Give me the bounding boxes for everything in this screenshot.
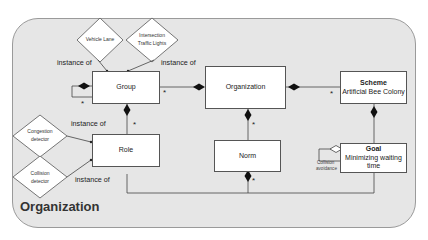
vehicle-lane-label: Vehicle Lane [86,36,115,44]
instance-of-label-1: instance of [57,58,92,67]
goal-subtitle: Minimizing waiting time [341,154,406,172]
instance-of-label-4: instance of [75,175,110,184]
group-title: Group [116,83,135,92]
collision-label-line2: detector [31,178,49,186]
collision-label-line1: Collision [31,170,50,178]
congestion-label-line2: detector [31,136,49,144]
multiplicity-org-scheme: * [330,89,333,98]
congestion-label-line1: Congestion [27,128,52,136]
organization-box[interactable]: Organization [205,66,286,109]
collision-avoidance-line2: avoidance [316,166,337,172]
norm-title: Norm [239,152,256,161]
norm-box[interactable]: Norm [214,140,281,172]
goal-title: Goal [366,145,382,154]
organization-title: Organization [226,83,266,92]
intersection-label-line2: Traffic Lights [138,40,166,48]
goal-box[interactable]: Goal Minimizing waiting time [340,143,407,173]
multiplicity-org-norm: * [252,120,255,129]
scheme-box[interactable]: Scheme Artificial Bee Colony [340,71,407,104]
instance-of-label-3: instance of [71,119,106,128]
scheme-title: Scheme [360,79,387,88]
instance-of-label-2: instance of [161,58,196,67]
multiplicity-group-role: * [133,120,136,129]
role-title: Role [119,146,133,155]
scheme-subtitle: Artificial Bee Colony [342,88,405,97]
multiplicity-group-org: * [163,88,166,97]
multiplicity-group-self: * [81,99,84,108]
intersection-label-line1: Intersection [139,32,165,40]
multiplicity-norm-bottom: * [252,176,255,185]
group-box[interactable]: Group [92,71,160,104]
container-title: Organization [20,199,99,214]
role-box[interactable]: Role [92,134,160,167]
